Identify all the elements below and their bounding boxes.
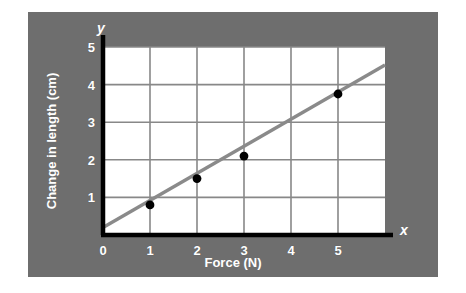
y-axis-title-wrapper: Change in length (cm)	[40, 47, 62, 235]
y-tick-label: 4	[81, 78, 95, 91]
y-tick-label: 5	[81, 41, 95, 54]
gridlines	[103, 47, 385, 235]
y-axis-title: Change in length (cm)	[44, 73, 59, 210]
y-tick-label: 3	[81, 116, 95, 129]
chart-graphics	[0, 0, 466, 293]
x-axis-name: x	[400, 222, 408, 238]
x-axis-title: Force (N)	[0, 255, 466, 270]
y-tick-label: 1	[81, 191, 95, 204]
y-axis-name: y	[97, 20, 105, 36]
figure-canvas: 012345 12345 Force (N) Change in length …	[0, 0, 466, 293]
y-tick-label: 2	[81, 153, 95, 166]
